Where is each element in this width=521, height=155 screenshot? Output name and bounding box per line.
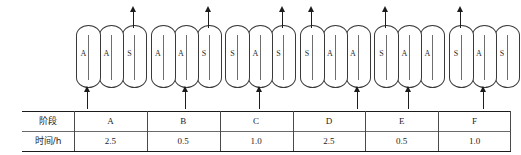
column-label: A bbox=[251, 49, 260, 58]
table-cell: 0.5 bbox=[365, 131, 438, 151]
adsorption-column: A bbox=[420, 25, 445, 88]
column-label: A bbox=[423, 49, 432, 58]
adsorption-column: A bbox=[397, 25, 422, 88]
column-bed-line bbox=[507, 35, 508, 80]
table-cell: C bbox=[220, 111, 293, 131]
adsorption-column: S bbox=[122, 25, 147, 88]
outlet-arrow bbox=[380, 6, 391, 28]
table-column-divider bbox=[220, 111, 221, 151]
adsorption-column: A bbox=[323, 25, 348, 88]
adsorption-column: A bbox=[248, 25, 273, 88]
column-label: S bbox=[228, 49, 237, 58]
table-cell: F bbox=[438, 111, 511, 131]
row-header: 时间/h bbox=[22, 131, 74, 151]
column-label: S bbox=[303, 49, 312, 58]
column-label: A bbox=[154, 49, 163, 58]
inlet-arrow bbox=[403, 86, 414, 109]
table-cell: B bbox=[147, 111, 220, 131]
adsorption-column: S bbox=[197, 25, 222, 88]
table-cell: 0.5 bbox=[147, 131, 220, 151]
outlet-arrow bbox=[277, 6, 288, 28]
adsorption-column: S bbox=[374, 25, 399, 88]
column-group-f: SAS bbox=[449, 0, 520, 112]
table-cell: A bbox=[74, 111, 147, 131]
column-label: S bbox=[125, 49, 134, 58]
inlet-arrow bbox=[352, 86, 363, 109]
column-bed-line bbox=[312, 35, 313, 80]
column-label: A bbox=[79, 49, 88, 58]
inlet-arrow bbox=[254, 86, 265, 109]
column-bed-line bbox=[237, 35, 238, 80]
column-label: S bbox=[452, 49, 461, 58]
column-label: A bbox=[177, 49, 186, 58]
inlet-arrow bbox=[82, 86, 93, 109]
column-bed-line bbox=[260, 35, 261, 80]
adsorption-column: S bbox=[495, 25, 520, 88]
capsule-row: SAS bbox=[449, 25, 520, 88]
outlet-arrow bbox=[128, 6, 139, 28]
column-label: A bbox=[326, 49, 335, 58]
column-bed-line bbox=[163, 35, 164, 80]
table-cell: E bbox=[365, 111, 438, 131]
table-cell: 2.5 bbox=[293, 131, 366, 151]
adsorption-column: S bbox=[449, 25, 474, 88]
table-column-divider bbox=[438, 111, 439, 151]
table-column-divider bbox=[365, 111, 366, 151]
column-group-a: AAS bbox=[76, 0, 147, 112]
table-cell: 1.0 bbox=[438, 131, 511, 151]
process-diagram-figure: AASAASSASSAASAASAS 阶段ABCDEF时间/h2.50.51.0… bbox=[0, 0, 521, 155]
column-label: S bbox=[377, 49, 386, 58]
column-bed-line bbox=[88, 35, 89, 80]
adsorption-column: S bbox=[300, 25, 325, 88]
column-bed-line bbox=[209, 35, 210, 80]
column-label: A bbox=[475, 49, 484, 58]
outlet-arrow bbox=[203, 6, 214, 28]
outlet-arrow bbox=[455, 6, 466, 28]
table-cell: 1.0 bbox=[220, 131, 293, 151]
column-group-b: AAS bbox=[151, 0, 222, 112]
table-column-divider bbox=[510, 111, 511, 151]
inlet-arrow bbox=[180, 86, 191, 109]
stage-time-table: 阶段ABCDEF时间/h2.50.51.02.50.51.0 bbox=[22, 111, 511, 151]
outlet-arrow bbox=[306, 6, 317, 28]
table-column-divider bbox=[74, 111, 75, 151]
column-label: A bbox=[400, 49, 409, 58]
column-bed-line bbox=[111, 35, 112, 80]
inlet-arrow bbox=[478, 86, 489, 109]
column-label: S bbox=[498, 49, 507, 58]
column-bed-line bbox=[358, 35, 359, 80]
column-bed-line bbox=[283, 35, 284, 80]
capsule-row: AAS bbox=[151, 25, 222, 88]
row-header: 阶段 bbox=[22, 111, 74, 131]
adsorption-column: A bbox=[346, 25, 371, 88]
column-group-c: SAS bbox=[225, 0, 296, 112]
column-bed-line bbox=[386, 35, 387, 80]
column-label: S bbox=[200, 49, 209, 58]
column-bed-line bbox=[409, 35, 410, 80]
column-bed-line bbox=[186, 35, 187, 80]
table-column-divider bbox=[147, 111, 148, 151]
adsorption-column: S bbox=[225, 25, 250, 88]
adsorption-column: A bbox=[99, 25, 124, 88]
column-bed-line bbox=[461, 35, 462, 80]
capsule-row: AAS bbox=[76, 25, 147, 88]
adsorption-column-diagram: AASAASSASSAASAASAS bbox=[0, 0, 521, 112]
adsorption-column: A bbox=[151, 25, 176, 88]
column-bed-line bbox=[432, 35, 433, 80]
column-label: A bbox=[349, 49, 358, 58]
adsorption-column: A bbox=[174, 25, 199, 88]
table-cell: D bbox=[293, 111, 366, 131]
column-label: S bbox=[274, 49, 283, 58]
column-bed-line bbox=[484, 35, 485, 80]
adsorption-column: A bbox=[76, 25, 101, 88]
column-group-d: SAA bbox=[300, 0, 371, 112]
capsule-row: SAA bbox=[300, 25, 371, 88]
column-label: A bbox=[102, 49, 111, 58]
adsorption-column: A bbox=[472, 25, 497, 88]
column-bed-line bbox=[134, 35, 135, 80]
capsule-row: SAA bbox=[374, 25, 445, 88]
adsorption-column: S bbox=[271, 25, 296, 88]
column-bed-line bbox=[335, 35, 336, 80]
table-column-divider bbox=[293, 111, 294, 151]
table-cell: 2.5 bbox=[74, 131, 147, 151]
